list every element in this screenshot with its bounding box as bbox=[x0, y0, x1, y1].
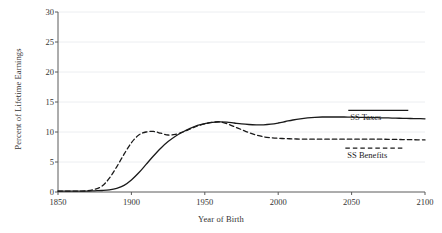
x-tick-label-2050: 2050 bbox=[332, 197, 372, 207]
x-axis-title: Year of Birth bbox=[0, 214, 442, 224]
series-label-ss-benefits: SS Benefits bbox=[347, 150, 387, 160]
series-label-ss-taxes: SS Taxes bbox=[350, 112, 381, 122]
x-tick-label-1950: 1950 bbox=[185, 197, 225, 207]
x-tick-label-1900: 1900 bbox=[111, 197, 151, 207]
y-tick-label-0: 0 bbox=[30, 187, 54, 197]
x-tick-label-2100: 2100 bbox=[405, 197, 442, 207]
tickmarks-group bbox=[55, 12, 425, 195]
chart-container: Percent of Lifetime Earnings Year of Bir… bbox=[0, 0, 442, 233]
y-tick-label-30: 30 bbox=[30, 7, 54, 17]
y-tick-label-20: 20 bbox=[30, 67, 54, 77]
x-tick-label-2000: 2000 bbox=[258, 197, 298, 207]
y-tick-label-15: 15 bbox=[30, 97, 54, 107]
y-tick-label-10: 10 bbox=[30, 127, 54, 137]
y-tick-label-5: 5 bbox=[30, 157, 54, 167]
y-axis-title: Percent of Lifetime Earnings bbox=[13, 19, 23, 179]
y-axis-title-wrapper: Percent of Lifetime Earnings bbox=[0, 0, 20, 200]
y-tick-label-25: 25 bbox=[30, 37, 54, 47]
x-tick-label-1850: 1850 bbox=[38, 197, 78, 207]
